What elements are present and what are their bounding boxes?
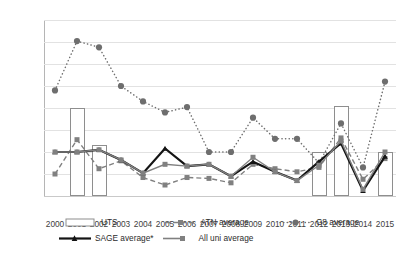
solid-triangle-swatch [58,233,92,244]
legend-item[interactable]: ATN average [164,217,249,228]
data-point-marker [229,180,234,185]
data-point-marker [162,109,168,115]
data-point-marker [53,172,58,177]
data-point-marker [250,115,256,121]
data-point-marker [294,136,300,142]
data-point-marker [228,149,234,155]
data-point-marker [273,169,278,174]
plot-area: 00.511.522.533.54 2000200120022003200420… [44,20,396,196]
data-point-marker [338,120,344,126]
legend-item-label: UTS [101,217,118,227]
data-point-marker [163,162,168,167]
data-point-marker [75,137,80,142]
dotted-circle-swatch [279,217,313,228]
data-point-marker [96,44,102,50]
data-point-marker [185,164,190,169]
legend-item[interactable]: All uni average [162,233,254,244]
hollow-bar-swatch [64,217,98,228]
data-point-marker [207,176,212,181]
solid-triangle-swatch [58,233,92,244]
data-point-marker [184,104,190,110]
legend-item-label: G8 average [316,217,359,227]
legend-row: SAGE average*All uni average [44,230,396,246]
startup-companies-chart: # startup companies created 00.511.522.5… [0,0,404,255]
data-point-marker [229,174,234,179]
legend-item[interactable]: SAGE average* [58,233,154,244]
data-point-marker [162,146,168,151]
data-point-marker [97,166,102,171]
data-point-marker [339,139,344,144]
data-point-marker [361,177,366,182]
data-point-marker [163,183,168,188]
series-lines [44,20,396,197]
data-point-marker [295,178,300,183]
data-point-marker [53,150,58,155]
legend-item-label: All uni average [199,233,254,243]
data-point-marker [295,169,300,174]
legend-item-label: SAGE average* [95,233,154,243]
data-point-marker [317,163,322,168]
legend-item[interactable]: UTS [64,217,118,228]
data-point-marker [140,98,146,104]
legend-item[interactable]: G8 average [279,217,359,228]
data-point-marker [360,164,366,170]
solid-square-swatch [162,233,196,244]
data-point-marker [272,136,278,142]
data-point-marker [361,187,366,192]
dashed-square-swatch [164,217,198,228]
legend-item-label: ATN average [201,217,249,227]
chart-legend: UTSATN averageG8 average SAGE average*Al… [44,214,396,250]
legend-row: UTSATN averageG8 average [44,214,396,230]
data-point-marker [52,87,58,93]
dashed-square-swatch [164,217,198,228]
data-point-marker [74,38,80,44]
series-line [55,138,385,185]
hollow-bar-swatch [64,217,98,228]
data-point-marker [75,150,80,155]
data-point-marker [383,150,388,155]
data-point-marker [118,83,124,89]
data-point-marker [206,149,212,155]
data-point-marker [185,175,190,180]
data-point-marker [382,79,388,85]
data-point-marker [97,147,102,152]
data-point-marker [251,155,256,160]
data-point-marker [119,157,124,162]
dotted-circle-swatch [279,217,313,228]
data-point-marker [207,162,212,167]
solid-square-swatch [162,233,196,244]
data-point-marker [141,175,146,180]
data-point-marker [141,171,146,176]
